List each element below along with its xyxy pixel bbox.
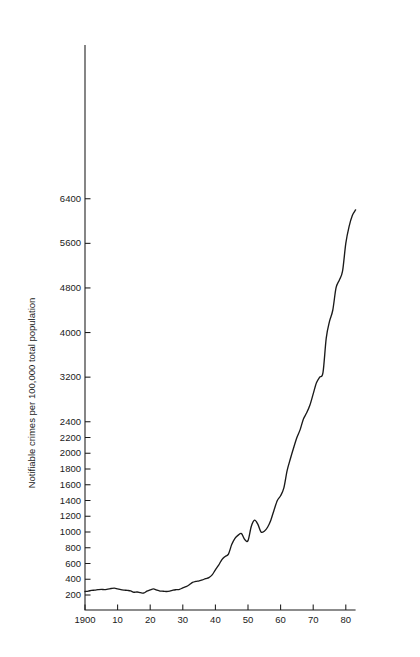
y-tick-label: 5600	[60, 237, 81, 248]
y-tick-label: 1400	[60, 495, 81, 506]
y-axis-title: Notifiable crimes per 100,000 total popu…	[26, 298, 37, 489]
y-tick-label: 2400	[60, 416, 81, 427]
y-axis-ticks: 2004006008001000120014001600180020002200…	[60, 193, 91, 600]
y-tick-label: 200	[65, 589, 81, 600]
y-tick-label: 1800	[60, 463, 81, 474]
y-tick-label: 600	[65, 558, 81, 569]
x-tick-label: 80	[341, 614, 352, 625]
y-tick-label: 1000	[60, 526, 81, 537]
x-tick-label: 50	[243, 614, 254, 625]
x-tick-label: 60	[275, 614, 286, 625]
x-tick-label: 1900	[74, 614, 95, 625]
y-tick-label: 4000	[60, 327, 81, 338]
line-chart: 2004006008001000120014001600180020002200…	[0, 0, 420, 657]
axis-lines	[85, 45, 356, 610]
x-tick-label: 70	[308, 614, 319, 625]
x-tick-label: 30	[178, 614, 189, 625]
y-tick-label: 2200	[60, 432, 81, 443]
x-tick-label: 40	[210, 614, 221, 625]
y-tick-label: 1200	[60, 510, 81, 521]
x-tick-label: 10	[112, 614, 123, 625]
y-tick-label: 2000	[60, 447, 81, 458]
chart-container: 2004006008001000120014001600180020002200…	[0, 0, 420, 657]
x-tick-label: 20	[145, 614, 156, 625]
crime-rate-line	[85, 210, 356, 593]
y-tick-label: 800	[65, 542, 81, 553]
x-axis-ticks: 19001020304050607080	[74, 605, 351, 626]
y-tick-label: 1600	[60, 479, 81, 490]
y-tick-label: 6400	[60, 193, 81, 204]
y-tick-label: 3200	[60, 371, 81, 382]
y-tick-label: 400	[65, 573, 81, 584]
y-tick-label: 4800	[60, 282, 81, 293]
